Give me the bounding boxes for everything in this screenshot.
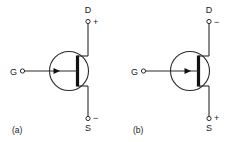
panel-b-source-label: S bbox=[206, 123, 212, 133]
panel-b-drain-label: D bbox=[206, 5, 213, 15]
panel-a: D + S − G (a) bbox=[10, 5, 98, 135]
panel-a-gate-arrow-icon bbox=[54, 68, 61, 74]
panel-a-drain-terminal-node[interactable] bbox=[86, 19, 90, 23]
panel-b-drain-terminal-node[interactable] bbox=[207, 19, 211, 23]
panel-b-gate-label: G bbox=[131, 67, 138, 77]
panel-a-drain-polarity: + bbox=[93, 17, 98, 27]
panel-a-caption: (a) bbox=[12, 125, 23, 135]
panel-b: D − S + G (b) bbox=[131, 5, 219, 135]
panel-a-source-label: S bbox=[85, 123, 91, 133]
panel-b-caption: (b) bbox=[133, 125, 144, 135]
panel-b-source-polarity: + bbox=[214, 113, 219, 123]
panel-b-gate-terminal-node[interactable] bbox=[141, 69, 145, 73]
panel-a-drain-label: D bbox=[85, 5, 92, 15]
jfet-symbols-diagram: D + S − G (a) bbox=[0, 0, 240, 142]
panel-b-source-terminal-node[interactable] bbox=[207, 116, 211, 120]
panel-a-gate-terminal-node[interactable] bbox=[20, 69, 24, 73]
figure-root: D + S − G (a) bbox=[0, 0, 240, 142]
panel-b-drain-polarity: − bbox=[214, 17, 219, 27]
panel-a-source-polarity: − bbox=[93, 113, 98, 123]
panel-a-gate-label: G bbox=[10, 67, 17, 77]
panel-a-source-terminal-node[interactable] bbox=[86, 116, 90, 120]
panel-b-gate-arrow-icon bbox=[185, 68, 192, 74]
